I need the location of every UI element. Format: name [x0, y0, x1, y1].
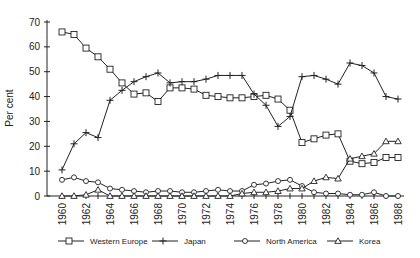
data-point-western-europe [95, 54, 101, 60]
data-point-japan [335, 81, 342, 88]
legend-label: Japan [184, 237, 206, 246]
legend-marker-western-europe [66, 238, 72, 244]
data-point-western-europe [359, 161, 365, 167]
line-chart: 010203040506070 196019621964196619681970… [0, 0, 420, 258]
legend-item-japan: Japan [152, 237, 206, 246]
y-axis-label: Per cent [4, 89, 15, 126]
data-point-north-america [288, 177, 293, 182]
data-point-japan [347, 60, 354, 67]
data-point-western-europe [227, 95, 233, 101]
data-point-japan [95, 134, 102, 141]
data-point-japan [359, 62, 366, 69]
x-tick-label: 1978 [273, 203, 284, 226]
data-point-north-america [336, 191, 341, 196]
data-point-western-europe [71, 31, 77, 37]
y-tick-label: 60 [29, 41, 41, 52]
data-point-western-europe [395, 154, 401, 160]
x-tick-label: 1968 [153, 203, 164, 226]
data-point-japan [227, 72, 234, 79]
data-point-korea [95, 187, 101, 193]
data-point-japan [395, 96, 402, 103]
x-tick-label: 1976 [249, 203, 260, 226]
x-tick-label: 1984 [345, 203, 356, 226]
data-point-north-america [360, 192, 365, 197]
data-point-japan [131, 78, 138, 85]
data-point-korea [323, 174, 329, 180]
data-point-japan [323, 76, 330, 83]
data-point-north-america [264, 181, 269, 186]
data-point-north-america [60, 177, 65, 182]
data-point-north-america [324, 191, 329, 196]
data-point-north-america [120, 187, 125, 192]
y-tick-label: 70 [29, 17, 41, 28]
legend-label: Korea [359, 237, 381, 246]
series-line-japan [62, 63, 398, 170]
data-point-western-europe [107, 66, 113, 72]
x-tick-label: 1974 [225, 203, 236, 226]
data-point-north-america [396, 194, 401, 199]
x-tick-label: 1966 [129, 203, 140, 226]
legend-item-north-america: North America [234, 237, 317, 246]
data-point-western-europe [311, 136, 317, 142]
legend-marker-north-america [243, 239, 248, 244]
data-point-japan [383, 93, 390, 100]
legend-item-western-europe: Western Europe [58, 237, 148, 246]
legend: Western EuropeJapanNorth AmericaKorea [58, 237, 381, 246]
data-point-western-europe [215, 94, 221, 100]
data-point-western-europe [119, 80, 125, 86]
data-point-north-america [84, 179, 89, 184]
x-tick-label: 1960 [57, 203, 68, 226]
data-point-japan [143, 73, 150, 80]
x-tick-label: 1970 [177, 203, 188, 226]
data-point-japan [203, 76, 210, 83]
data-point-western-europe [191, 86, 197, 92]
data-point-japan [371, 69, 378, 76]
data-point-western-europe [335, 131, 341, 137]
data-point-japan [311, 72, 318, 79]
x-tick-label: 1980 [297, 203, 308, 226]
x-tick-label: 1986 [369, 203, 380, 226]
data-point-japan [191, 78, 198, 85]
data-point-japan [215, 72, 222, 79]
data-point-north-america [372, 190, 377, 195]
x-tick-label: 1972 [201, 203, 212, 226]
x-tick-label: 1962 [81, 203, 92, 226]
axes [47, 20, 404, 196]
data-point-north-america [252, 182, 257, 187]
x-tick-label: 1988 [393, 203, 404, 226]
data-point-north-america [72, 175, 77, 180]
y-tick-label: 40 [29, 91, 41, 102]
data-point-japan [239, 72, 246, 79]
data-point-japan [179, 78, 186, 85]
data-point-western-europe [239, 95, 245, 101]
data-point-japan [59, 166, 66, 173]
legend-marker-japan [160, 238, 167, 245]
legend-label: North America [266, 237, 317, 246]
data-point-western-europe [59, 29, 65, 35]
data-point-western-europe [383, 154, 389, 160]
data-point-north-america [108, 186, 113, 191]
data-point-western-europe [179, 85, 185, 91]
data-point-north-america [276, 179, 281, 184]
legend-item-korea: Korea [327, 237, 381, 246]
data-point-western-europe [143, 90, 149, 96]
data-point-western-europe [263, 92, 269, 98]
data-point-western-europe [275, 96, 281, 102]
data-point-western-europe [371, 159, 377, 165]
data-point-north-america [348, 192, 353, 197]
data-point-western-europe [203, 92, 209, 98]
data-point-north-america [216, 187, 221, 192]
y-tick-label: 50 [29, 66, 41, 77]
x-tick-label: 1982 [321, 203, 332, 226]
data-point-western-europe [155, 99, 161, 105]
data-point-western-europe [83, 45, 89, 51]
y-tick-label: 30 [29, 116, 41, 127]
y-tick-label: 20 [29, 141, 41, 152]
legend-label: Western Europe [90, 237, 148, 246]
data-point-japan [299, 73, 306, 80]
y-tick-label: 10 [29, 166, 41, 177]
data-point-western-europe [299, 140, 305, 146]
data-point-north-america [312, 190, 317, 195]
data-point-western-europe [131, 91, 137, 97]
x-tick-label: 1964 [105, 203, 116, 226]
